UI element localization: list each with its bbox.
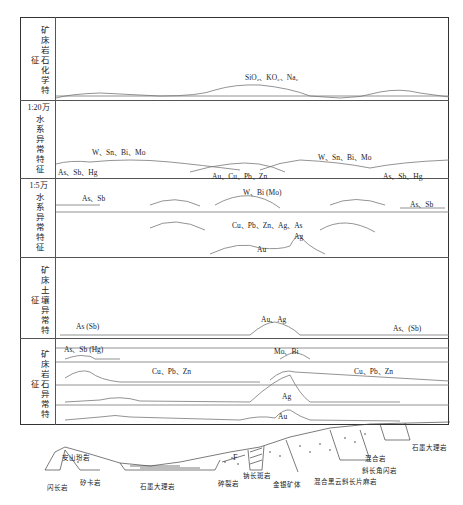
annotation-cu-pb-zn-rock-left: Cu、Pb、Zn	[152, 365, 191, 376]
anomaly-curves	[0, 0, 463, 505]
rock-label-diorite: 闪长岩	[47, 482, 68, 492]
annotation-as-sb-soil-right: As、(Sb)	[393, 322, 421, 333]
annotation-major-oxides: SiO₂、KO₂、Na₂	[245, 71, 298, 82]
annotation-au: Au	[257, 245, 266, 254]
rock-label-skarn: 矽卡岩	[80, 477, 101, 487]
annotation-cu-pb-zn-rock-right: Cu、Pb、Zn	[354, 365, 393, 376]
annotation-w-sn-bi-mo-right: W、Sn、Bi、Mo	[318, 151, 372, 162]
annotation-au-rock: Au	[278, 412, 287, 421]
rock-label-migmatite-gneiss: 混合黑云斜长片麻岩	[314, 476, 377, 486]
rock-label-sodic-porphyry: 钠长斑岩	[243, 470, 271, 480]
annotation-as-sb-right: As、Sb	[410, 198, 433, 209]
rock-label-gold-silver-orebody: 金银矿体	[273, 479, 301, 489]
rock-label-graphite-marble: 石墨大理岩	[140, 481, 175, 491]
annotation-as-sb-left: As、Sb	[82, 192, 105, 203]
annotation-as-sb-hg-right: As、Sb、Hg	[383, 170, 422, 181]
annotation-as-sb-soil-left: As (Sb)	[76, 322, 99, 331]
annotation-as-sb-hg-rock: As、Sb (Hg)	[64, 343, 103, 354]
rock-label-graphite-marble-2: 石墨大理岩	[412, 442, 447, 452]
annotation-mo-bi: Mo、Bi	[274, 345, 299, 356]
fault-label-f: F	[233, 453, 237, 462]
annotation-au-cu-pb-zn: Au、Cu、Pb、Zn	[212, 170, 267, 181]
annotation-au-ag-soil: Au、Ag	[261, 313, 286, 324]
rock-label-andesite: 安山玢岩	[62, 452, 90, 462]
annotation-as-sb-hg-left: As、Sb、Hg	[58, 166, 97, 177]
annotation-ag-rock: Ag	[282, 392, 291, 401]
annotation-ag: Ag	[294, 232, 303, 241]
annotation-w-sn-bi-mo-left: W、Sn、Bi、Mo	[92, 146, 146, 157]
rock-label-migmatite: 混合岩	[365, 453, 386, 463]
rock-label-amphibolite: 斜长角闪岩	[362, 465, 397, 475]
annotation-w-bi-mo: W、Bi (Mo)	[243, 186, 281, 197]
rock-label-cataclasite: 碎裂岩	[218, 478, 239, 488]
annotation-cu-pb-zn-ag-as: Cu、Pb、Zn、Ag、As	[232, 219, 303, 230]
